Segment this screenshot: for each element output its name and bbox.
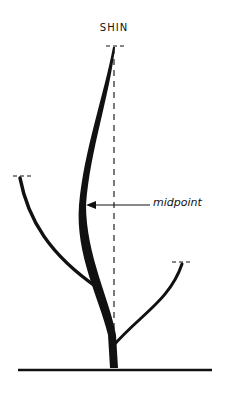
- main-stem: [79, 47, 118, 368]
- right-branch: [114, 264, 182, 345]
- midpoint-label: midpoint: [153, 196, 202, 209]
- shin-diagram: [0, 0, 245, 396]
- midpoint-arrow: [86, 201, 150, 209]
